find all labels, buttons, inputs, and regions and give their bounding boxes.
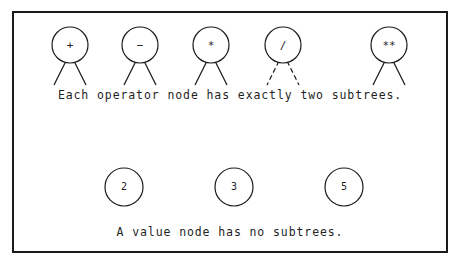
expression-tree-node-figure: +−*/** 235 Each operator node has exactl… bbox=[0, 0, 460, 267]
value-caption: A value node has no subtrees. bbox=[0, 225, 460, 239]
value-node-label-value-two: 2 bbox=[121, 182, 127, 192]
subtree-stub-right-plus bbox=[74, 61, 86, 85]
operator-node-label-divide: / bbox=[280, 40, 287, 51]
subtree-stub-right-power bbox=[393, 61, 405, 85]
subtree-stub-left-times bbox=[195, 61, 207, 85]
operator-node-group bbox=[52, 27, 407, 85]
subtree-stub-left-plus bbox=[54, 61, 66, 85]
operator-node-label-minus: − bbox=[137, 40, 144, 51]
operator-node-label-times: * bbox=[208, 40, 215, 51]
operator-caption: Each operator node has exactly two subtr… bbox=[0, 88, 460, 102]
subtree-stub-left-minus bbox=[124, 61, 136, 85]
subtree-stub-right-divide bbox=[287, 61, 299, 85]
subtree-stub-right-minus bbox=[144, 61, 156, 85]
value-node-label-value-three: 3 bbox=[231, 182, 237, 192]
subtree-stub-left-divide bbox=[267, 61, 279, 85]
value-node-label-value-five: 5 bbox=[341, 182, 347, 192]
operator-node-label-plus: + bbox=[67, 40, 74, 51]
subtree-stub-right-times bbox=[215, 61, 227, 85]
operator-node-label-power: ** bbox=[382, 40, 395, 51]
subtree-stub-left-power bbox=[373, 61, 385, 85]
